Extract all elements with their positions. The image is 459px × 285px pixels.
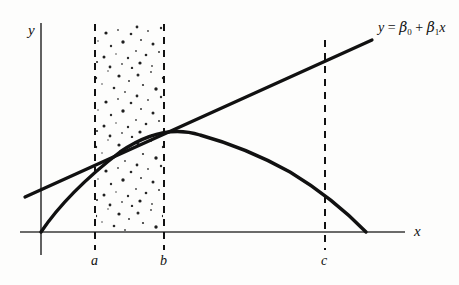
plot-svg [0,0,459,285]
tick-label-a: a [91,254,98,268]
regression-line [25,40,372,197]
figure-canvas: y x a b c y = β0 + β1x [0,0,459,285]
x-axis-label: x [414,224,421,239]
equation-beta1: β [427,19,435,35]
equation-beta0: β [399,19,407,35]
equation-x: x [439,20,445,35]
y-axis-label: y [28,23,35,38]
equation-label: y = β0 + β1x [378,20,445,37]
equation-plus: + [415,20,423,35]
equation-y: y [378,20,384,35]
tick-label-c: c [321,254,327,268]
shaded-region-a-to-b [96,24,163,231]
quadratic-curve [41,131,366,232]
equation-beta0-subscript: 0 [407,27,412,37]
equation-equals: = [388,20,396,35]
tick-label-b: b [160,254,167,268]
